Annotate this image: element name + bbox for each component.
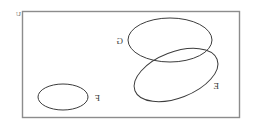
set-diagram-canvas: U F G E (0, 0, 257, 127)
set-label-f: F (95, 93, 100, 103)
set-ellipse-g (128, 18, 212, 62)
universe-rectangle (23, 12, 240, 118)
set-label-g: G (116, 36, 123, 46)
universe-label: U (16, 10, 21, 18)
diagram-svg: U F G E (0, 0, 257, 127)
set-ellipse-f (38, 84, 88, 110)
set-label-e: E (213, 81, 219, 91)
set-ellipse-e (127, 38, 226, 112)
